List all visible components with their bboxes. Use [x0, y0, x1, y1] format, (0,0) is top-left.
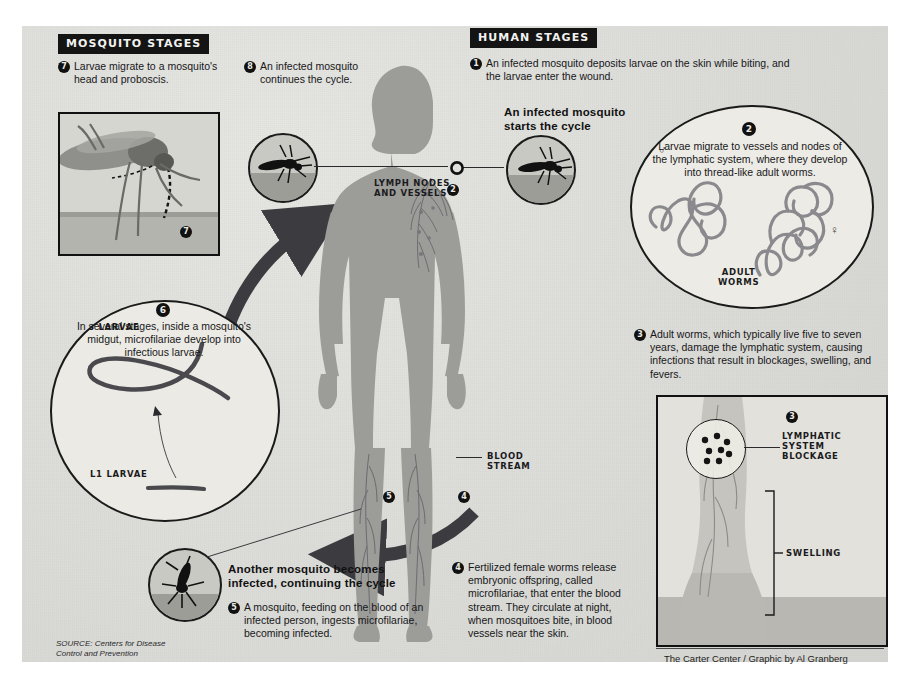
mosquito-inset-start: [506, 135, 576, 205]
label-swelling: SWELLING: [786, 548, 841, 558]
infographic-canvas: LYMPH NODES AND VESSELS 2 BLOOD STREAM 5…: [0, 0, 909, 688]
leader-blockage: [744, 447, 780, 448]
badge-5-circle: 5: [228, 602, 240, 614]
step-6-text: In several stages, inside a mosquito's m…: [68, 320, 260, 359]
step-3-text: Adult worms, which typically live five t…: [650, 328, 884, 381]
leader-bottom-mosquito: [205, 505, 365, 565]
step-2-text: Larvae migrate to vessels and nodes of t…: [652, 140, 848, 179]
marker-step2-circle: 2: [742, 120, 756, 138]
step-3: 3 Adult worms, which typically live five…: [634, 328, 884, 381]
mosquito-proboscis-photo: 7: [58, 112, 220, 256]
section-header-human: HUMAN STAGES: [470, 28, 597, 48]
marker-step1: [450, 161, 464, 175]
label-l1-larvae: L1 LARVAE: [90, 469, 148, 479]
swollen-leg-photo: 3 LYMPHATIC SYSTEM BLOCKAGE SWELLING: [656, 395, 888, 647]
badge-2-circle: 2: [742, 122, 756, 136]
callout-another-mosquito: Another mosquito becomes infected, conti…: [228, 562, 396, 590]
step-7: 7 7 Larvae migrate to a mosquito's head …: [58, 60, 234, 86]
step-1-text: An infected mosquito deposits larvae on …: [486, 57, 800, 83]
badge-1-circle: 1: [470, 58, 482, 70]
swelling-bracket: [762, 489, 784, 617]
step-5: 5 A mosquito, feeding on the blood of an…: [228, 601, 436, 641]
step-7-text: Larvae migrate to a mosquito's head and …: [74, 60, 234, 86]
label-adult-worms: ADULT WORMS: [718, 267, 759, 287]
leader-mosquito-top: [314, 166, 448, 167]
blockage-detail-inset: [686, 419, 746, 479]
badge-3-circle: 3: [634, 329, 646, 341]
credit-divider: [656, 648, 884, 649]
badge-6-circle: 6: [156, 303, 170, 317]
step-4-text: Fertilized female worms release embryoni…: [468, 561, 622, 640]
leader-step1: [462, 167, 504, 168]
badge-photo-7: 7: [180, 226, 192, 238]
marker-step3-photo: 3: [786, 407, 798, 425]
label-blood-stream: BLOOD STREAM: [487, 451, 531, 471]
leader-blood-stream: [456, 457, 482, 458]
female-symbol: ♀: [830, 223, 839, 237]
badge-3-photo: 3: [786, 411, 798, 423]
step-8: 8 An infected mosquito continues the cyc…: [244, 60, 372, 86]
graphic-credit: The Carter Center / Graphic by Al Granbe…: [664, 653, 848, 664]
section-header-mosquito: MOSQUITO STAGES: [58, 34, 209, 54]
mosquito-inset-top: [248, 133, 318, 203]
source-credit: SOURCE: Centers for Disease Control and …: [56, 639, 165, 659]
badge-2: 2: [447, 184, 459, 196]
step-8-text: An infected mosquito continues the cycle…: [260, 60, 372, 86]
marker-step5-leg: 5: [383, 487, 395, 505]
badge-8-circle: 8: [244, 61, 256, 73]
label-lymphatic-blockage: LYMPHATIC SYSTEM BLOCKAGE: [782, 431, 841, 461]
step-1: 1 An infected mosquito deposits larvae o…: [470, 57, 800, 83]
label-lymph-nodes: LYMPH NODES AND VESSELS: [374, 178, 450, 198]
callout-start-cycle: An infected mosquito starts the cycle: [504, 105, 626, 133]
badge-4-circle: 4: [452, 562, 464, 574]
marker-step6-circle: 6: [156, 301, 170, 319]
marker-step2: 2: [447, 180, 459, 198]
badge-5: 5: [383, 491, 395, 503]
badge-7-circle: 7: [58, 61, 70, 73]
step-5-text: A mosquito, feeding on the blood of an i…: [244, 601, 436, 641]
marker-step4-leg: 4: [458, 487, 470, 505]
step-4: 4 Fertilized female worms release embryo…: [452, 561, 622, 640]
badge-4: 4: [458, 491, 470, 503]
